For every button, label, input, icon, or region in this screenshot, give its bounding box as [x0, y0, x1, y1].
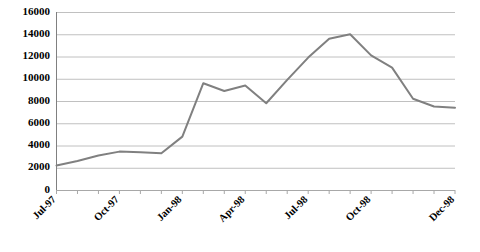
chart-container: 0200040006000800010000120001400016000 Ju… — [0, 0, 480, 252]
x-axis-tick-label: Jul-98 — [282, 194, 310, 222]
y-axis-tick-label: 12000 — [23, 49, 51, 61]
chart-svg: 0200040006000800010000120001400016000 Ju… — [0, 0, 480, 252]
y-axis-tick-label: 10000 — [23, 71, 51, 83]
y-axis-tick-label: 6000 — [28, 116, 51, 128]
y-axis-tick-label: 8000 — [28, 94, 51, 106]
x-axis-tick-label: Jul-97 — [30, 194, 58, 222]
x-axis-tick-label: Jan-98 — [155, 194, 184, 223]
y-axis-tick-label: 16000 — [23, 5, 51, 17]
y-axis-tick-label: 14000 — [23, 27, 51, 39]
x-axis-tick-label: Apr-98 — [216, 194, 246, 224]
x-axis-tick-label: Oct-98 — [343, 194, 372, 223]
y-axis-tick-label: 2000 — [28, 160, 51, 172]
line-chart: 0200040006000800010000120001400016000 Ju… — [0, 0, 480, 252]
y-axis-tick-label: 0 — [45, 183, 51, 195]
x-axis-tick-label: Dec-98 — [427, 194, 457, 224]
x-axis-tick-labels: Jul-97Oct-97Jan-98Apr-98Jul-98Oct-98Dec-… — [30, 194, 456, 224]
y-axis-tick-label: 4000 — [28, 138, 51, 150]
gridlines — [57, 13, 456, 169]
y-axis-tick-labels: 0200040006000800010000120001400016000 — [23, 5, 51, 195]
x-axis-tick-label: Oct-97 — [92, 194, 121, 223]
